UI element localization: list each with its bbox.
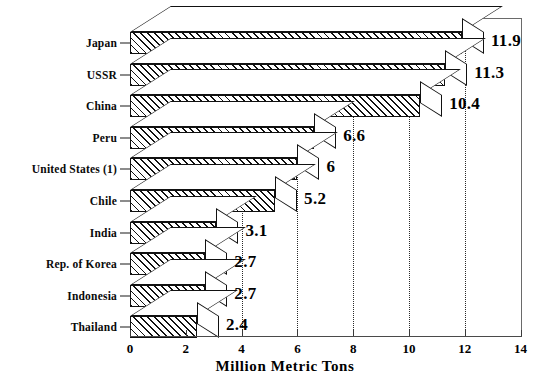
x-axis-tick-label: 12 <box>458 341 471 357</box>
category-tick <box>120 327 130 328</box>
x-axis-tick <box>353 330 354 336</box>
bar-value-label: 10.4 <box>449 94 480 114</box>
x-axis-tick <box>130 330 131 336</box>
x-axis-tick-label: 2 <box>183 341 190 357</box>
x-axis-tick-label: 14 <box>514 341 527 357</box>
bar-value-label: 11.3 <box>474 63 504 83</box>
x-axis-tick-label: 4 <box>238 341 245 357</box>
bar-value-label: 6.6 <box>343 126 365 146</box>
bar-top-face <box>130 69 461 95</box>
category-tick <box>120 201 130 202</box>
plot-frame-right <box>521 18 522 336</box>
x-axis-tick <box>297 330 298 336</box>
category-tick <box>120 106 130 107</box>
category-label: Chile <box>0 195 117 207</box>
category-label: USSR <box>0 69 117 81</box>
category-tick <box>120 264 130 265</box>
category-tick <box>120 137 130 138</box>
category-label: United States (1) <box>0 163 117 175</box>
category-tick <box>120 295 130 296</box>
category-label: Indonesia <box>0 290 117 302</box>
x-axis-tick <box>521 330 522 336</box>
x-axis-tick-label: 6 <box>294 341 301 357</box>
x-axis-tick-label: 8 <box>350 341 357 357</box>
category-label: India <box>0 227 117 239</box>
category-label: Rep. of Korea <box>0 258 117 270</box>
x-axis-tick-label: 10 <box>403 341 416 357</box>
category-label: China <box>0 100 117 112</box>
category-tick <box>120 43 130 44</box>
x-axis-tick <box>242 330 243 336</box>
category-label: Japan <box>0 37 117 49</box>
bar-top-face <box>130 6 503 32</box>
bar-value-label: 6 <box>326 157 335 177</box>
bar-top-face <box>130 38 486 64</box>
x-axis-tick <box>465 330 466 336</box>
bar-value-label: 2.7 <box>234 252 256 272</box>
category-tick <box>120 232 130 233</box>
x-axis-tick <box>186 330 187 336</box>
x-axis-tick-label: 0 <box>127 341 134 357</box>
x-axis-line <box>130 336 522 337</box>
bar-value-label: 11.9 <box>491 31 521 51</box>
category-tick <box>120 169 130 170</box>
x-axis-tick <box>409 330 410 336</box>
category-tick <box>120 74 130 75</box>
bar-value-label: 2.7 <box>234 284 256 304</box>
bar-value-label: 5.2 <box>304 189 326 209</box>
bar-value-label: 2.4 <box>226 315 248 335</box>
category-label: Thailand <box>0 321 117 333</box>
x-axis-title: Million Metric Tons <box>216 358 355 375</box>
category-label: Peru <box>0 132 117 144</box>
bar <box>130 316 219 352</box>
bar-value-label: 3.1 <box>245 221 267 241</box>
bar-chart-figure: JapanUSSRChinaPeruUnited States (1)Chile… <box>0 0 542 387</box>
